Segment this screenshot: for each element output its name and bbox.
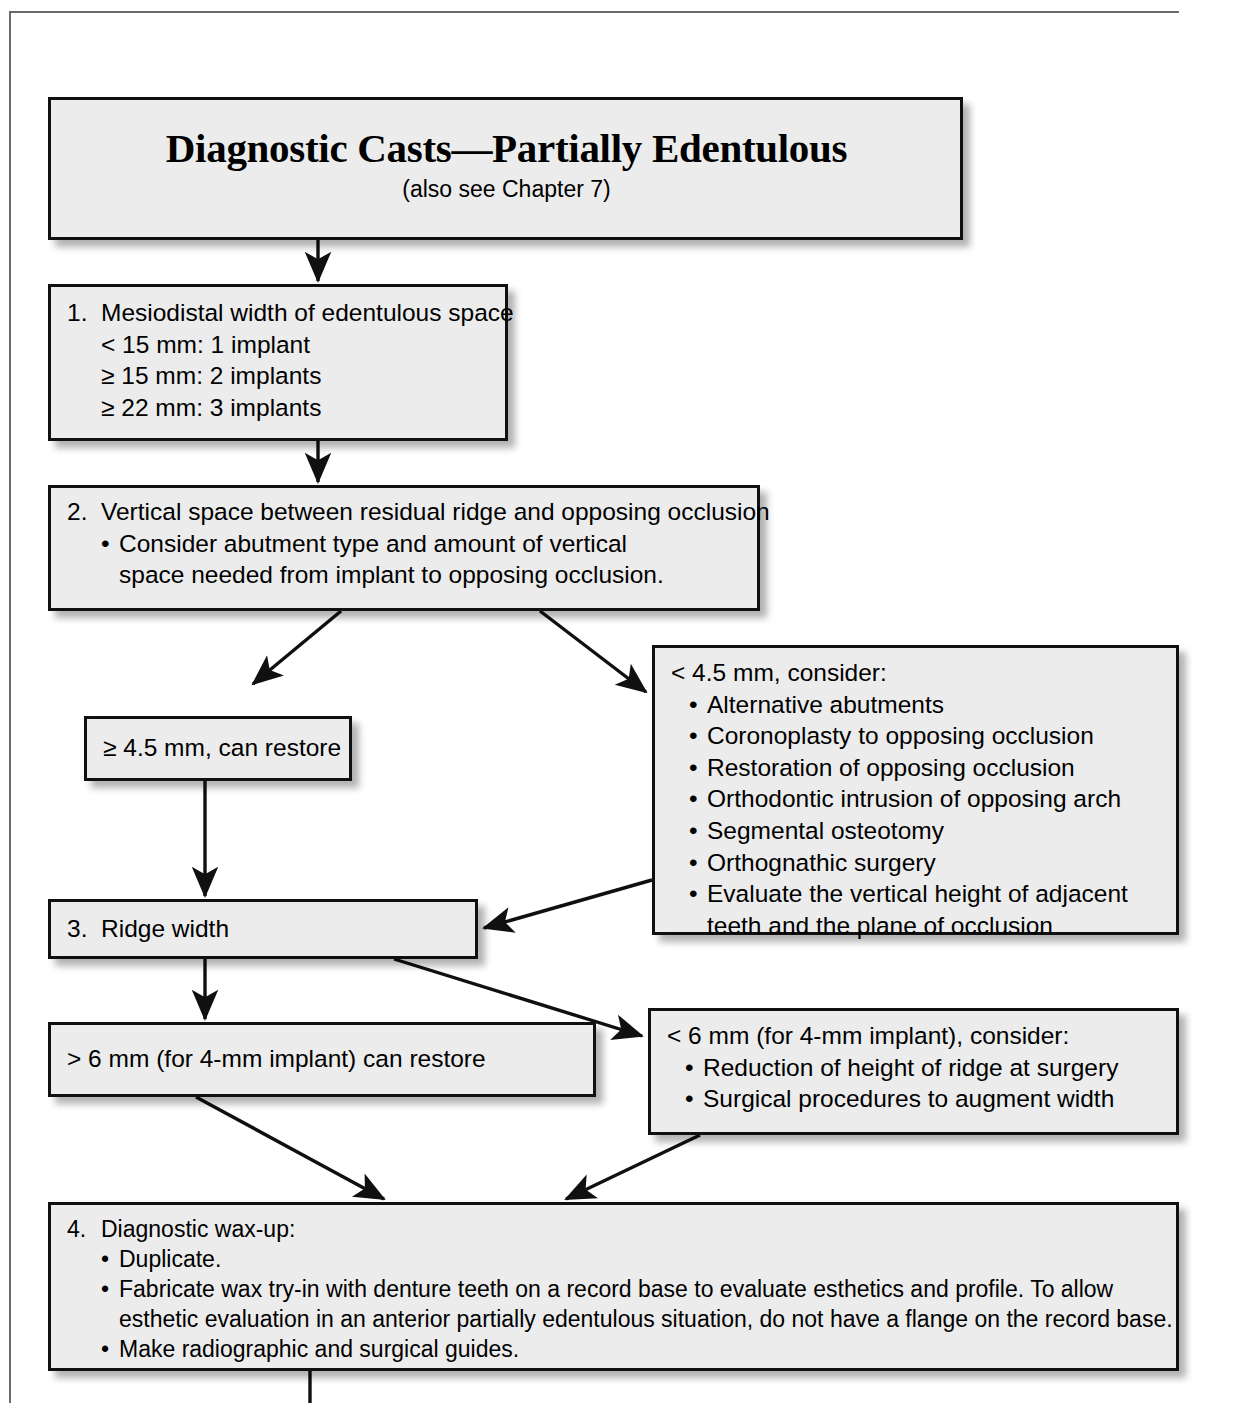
vertical-space-insufficient-heading: < 4.5 mm, consider:	[671, 657, 1162, 689]
step-3-heading: Ridge width	[101, 915, 229, 942]
flowchart-page: Diagnostic Casts—Partially Edentulous (a…	[0, 0, 1240, 1403]
vertical-space-ok-label: ≥ 4.5 mm, can restore	[103, 732, 335, 764]
title-box: Diagnostic Casts—Partially Edentulous (a…	[48, 97, 963, 240]
edge-widthlow-to-step4	[566, 1135, 700, 1199]
vertical-space-bullet-3: Restoration of opposing occlusion	[685, 752, 1162, 784]
step-4-number: 4.	[67, 1215, 101, 1245]
step-2-bullet-1: Consider abutment type and amount of ver…	[97, 528, 697, 591]
step-2-number: 2.	[67, 496, 101, 528]
vertical-space-bullet-5: Segmental osteotomy	[685, 815, 1162, 847]
ridge-width-bullet-2: Surgical procedures to augment width	[681, 1083, 1162, 1115]
step-1-box: 1.Mesiodistal width of edentulous space …	[48, 284, 508, 441]
step-3-number: 3.	[67, 913, 101, 945]
ridge-width-bullet-1: Reduction of height of ridge at surgery	[681, 1052, 1162, 1084]
step-1-number: 1.	[67, 297, 101, 329]
edge-step2-to-vertlow	[540, 611, 646, 692]
ridge-width-bullet-list: Reduction of height of ridge at surgery …	[681, 1052, 1162, 1115]
edge-vertlow-to-step3	[484, 880, 652, 928]
step-4-box: 4.Diagnostic wax-up: Duplicate. Fabricat…	[48, 1202, 1179, 1371]
step-4-bullet-3: Make radiographic and surgical guides.	[97, 1335, 1162, 1365]
page-frame-top-rule	[9, 11, 1179, 13]
ridge-width-insufficient-heading: < 6 mm (for 4-mm implant), consider:	[667, 1020, 1162, 1052]
step-1-line-3: ≥ 22 mm: 3 implants	[101, 392, 491, 424]
vertical-space-bullet-list: Alternative abutments Coronoplasty to op…	[685, 689, 1162, 942]
step-4-bullet-1: Duplicate.	[97, 1245, 1162, 1275]
step-1-line-2: ≥ 15 mm: 2 implants	[101, 360, 491, 392]
page-title: Diagnostic Casts—Partially Edentulous	[67, 126, 946, 170]
vertical-space-bullet-7: Evaluate the vertical height of adjacent…	[685, 878, 1137, 941]
vertical-space-bullet-4: Orthodontic intrusion of opposing arch	[685, 783, 1162, 815]
step-2-box: 2.Vertical space between residual ridge …	[48, 485, 760, 611]
vertical-space-bullet-1: Alternative abutments	[685, 689, 1162, 721]
step-2-bullet-list: Consider abutment type and amount of ver…	[97, 528, 697, 591]
step-4-bullet-list: Duplicate. Fabricate wax try-in with den…	[97, 1245, 1162, 1365]
ridge-width-insufficient-box: < 6 mm (for 4-mm implant), consider: Red…	[648, 1008, 1179, 1135]
step-3-box: 3.Ridge width	[48, 899, 478, 959]
step-4-heading: Diagnostic wax-up:	[101, 1216, 295, 1242]
vertical-space-bullet-6: Orthognathic surgery	[685, 847, 1162, 879]
edge-step2-to-vertok	[253, 611, 341, 684]
page-subtitle: (also see Chapter 7)	[67, 176, 946, 203]
vertical-space-ok-box: ≥ 4.5 mm, can restore	[84, 716, 352, 781]
step-2-heading: Vertical space between residual ridge an…	[101, 498, 770, 525]
step-1-heading: Mesiodistal width of edentulous space	[101, 299, 514, 326]
ridge-width-ok-box: > 6 mm (for 4-mm implant) can restore	[48, 1022, 596, 1097]
page-frame-left-rule	[9, 11, 11, 1403]
step-4-bullet-2: Fabricate wax try-in with denture teeth …	[97, 1275, 1179, 1335]
ridge-width-ok-label: > 6 mm (for 4-mm implant) can restore	[67, 1043, 579, 1075]
vertical-space-insufficient-box: < 4.5 mm, consider: Alternative abutment…	[652, 645, 1179, 935]
edge-widthok-to-step4	[196, 1097, 384, 1199]
vertical-space-bullet-2: Coronoplasty to opposing occlusion	[685, 720, 1162, 752]
step-1-line-1: < 15 mm: 1 implant	[101, 329, 491, 361]
